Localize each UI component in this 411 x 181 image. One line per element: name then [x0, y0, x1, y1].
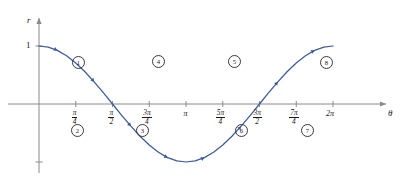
y-axis-label: r	[27, 16, 31, 25]
x-tick-label-5pi-over-4: 5π4	[216, 109, 225, 126]
x-tick-label-pi: π	[184, 110, 188, 118]
cosine-curve-figure: r θ 1 π4π23π4π5π43π27π42π 12345678	[0, 0, 411, 181]
segment-marker-4: 4	[152, 55, 165, 68]
x-tick-label-2pi: 2π	[326, 110, 334, 118]
plot-canvas	[0, 0, 411, 181]
y-axis-arrowhead	[36, 18, 41, 24]
x-tick-label-3pi-over-2: 3π2	[253, 109, 262, 126]
segment-marker-7: 7	[301, 124, 314, 137]
segment-marker-2: 2	[71, 124, 84, 137]
x-tick-label-pi-over-2: π2	[108, 109, 114, 126]
x-axis-label: θ	[388, 109, 392, 118]
segment-marker-6: 6	[235, 124, 248, 137]
segment-marker-8: 8	[320, 56, 333, 69]
segment-marker-3: 3	[136, 124, 149, 137]
segment-marker-1: 1	[72, 56, 85, 69]
x-tick-label-7pi-over-4: 7π4	[289, 109, 298, 126]
x-axis-arrowhead	[380, 101, 386, 106]
segment-marker-5: 5	[228, 55, 241, 68]
y-tick-label-one: 1	[26, 41, 31, 50]
